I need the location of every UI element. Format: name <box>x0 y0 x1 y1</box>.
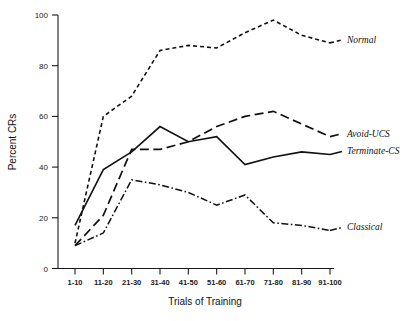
y-tick-label: 40 <box>39 163 48 172</box>
y-axis-ticks <box>52 15 58 269</box>
y-axis-title: Percent CRs <box>7 114 18 171</box>
y-axis-tick-labels: 020406080100 <box>35 11 49 274</box>
x-tick-label: 11-20 <box>94 278 113 287</box>
y-tick-label: 20 <box>39 214 48 223</box>
series-label-connector <box>330 151 342 154</box>
series-label-connector <box>330 227 342 230</box>
series-line-terminate-cs <box>75 127 330 226</box>
series-line-classical <box>75 180 330 246</box>
series-line-normal <box>75 20 330 243</box>
y-tick-label: 100 <box>35 11 49 20</box>
x-tick-label: 61-70 <box>235 278 254 287</box>
x-tick-label: 1-10 <box>67 278 82 287</box>
series-inline-labels: NormalAvoid-UCSTerminate-CSClassical <box>346 35 400 233</box>
series-label-connector <box>330 134 342 137</box>
x-axis-tick-labels: 1-1011-2021-3031-4041-5051-6061-7071-808… <box>67 278 341 287</box>
series-label-normal: Normal <box>346 35 376 45</box>
series-label-terminate-cs: Terminate-CS <box>347 146 400 156</box>
series-lines <box>75 20 342 246</box>
x-tick-label: 41-50 <box>179 278 198 287</box>
line-chart-svg: 020406080100 1-1011-2021-3031-4041-5051-… <box>0 0 420 321</box>
x-axis-ticks <box>75 269 330 275</box>
x-tick-label: 81-90 <box>292 278 311 287</box>
x-tick-label: 31-40 <box>150 278 169 287</box>
series-line-avoid-ucs <box>75 111 330 245</box>
x-tick-label: 71-80 <box>264 278 283 287</box>
series-label-classical: Classical <box>347 222 383 232</box>
y-tick-label: 0 <box>44 265 49 274</box>
x-tick-label: 91-100 <box>318 278 341 287</box>
chart-container: 020406080100 1-1011-2021-3031-4041-5051-… <box>0 0 420 321</box>
series-label-connector <box>330 40 342 43</box>
x-tick-label: 51-60 <box>207 278 226 287</box>
x-tick-label: 21-30 <box>122 278 141 287</box>
x-axis-title: Trials of Training <box>168 296 242 307</box>
y-tick-label: 80 <box>39 62 48 71</box>
y-tick-label: 60 <box>39 112 48 121</box>
series-label-avoid-ucs: Avoid-UCS <box>346 129 390 139</box>
